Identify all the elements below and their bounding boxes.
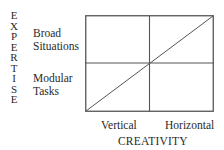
row-label-broad-situations: Broad Situations	[33, 27, 79, 53]
column-label-vertical: Vertical	[101, 119, 137, 132]
y-axis-letter: R	[10, 52, 17, 63]
row-label-line: Tasks	[33, 85, 73, 98]
row-label-modular-tasks: Modular Tasks	[33, 72, 73, 98]
y-axis-letter: I	[12, 73, 16, 84]
y-axis-letter: E	[11, 94, 18, 105]
row-label-line: Modular	[33, 72, 73, 85]
y-axis-letter: E	[11, 10, 18, 21]
row-label-line: Broad	[33, 27, 79, 40]
grid-lines	[85, 15, 214, 112]
row-label-line: Situations	[33, 40, 79, 53]
column-label-horizontal: Horizontal	[165, 119, 214, 132]
x-axis-title: CREATIVITY	[118, 135, 188, 148]
quadrant-grid	[85, 15, 214, 112]
y-axis-title: E X P E R T I S E	[8, 10, 20, 105]
y-axis-letter: P	[11, 31, 17, 42]
